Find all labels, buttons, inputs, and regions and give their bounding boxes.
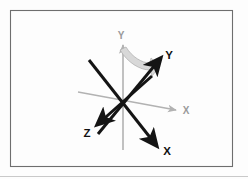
rotated-x-axis-label: X — [163, 145, 171, 157]
figure-canvas: X Y X Y Z — [0, 0, 248, 179]
rotated-z-axis-label: Z — [83, 127, 90, 139]
coordinate-rotation-diagram: X Y X Y Z — [0, 0, 248, 179]
reference-x-axis-label: X — [183, 105, 190, 116]
reference-y-axis-label: Y — [118, 30, 125, 41]
rotated-y-axis-label: Y — [165, 49, 173, 61]
